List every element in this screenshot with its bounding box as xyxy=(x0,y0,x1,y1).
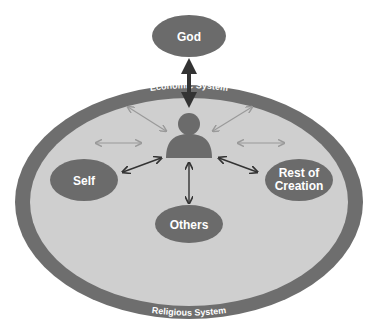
node-god: God xyxy=(152,15,226,57)
svg-text:Self: Self xyxy=(73,174,96,188)
svg-text:God: God xyxy=(177,30,201,44)
svg-text:Rest of: Rest of xyxy=(279,166,321,180)
svg-text:Others: Others xyxy=(170,218,209,232)
node-self: Self xyxy=(50,159,118,201)
svg-text:Creation: Creation xyxy=(275,179,324,193)
diagram-canvas: Economic System Religious System Politic… xyxy=(0,0,375,329)
node-rest-of-creation: Rest of Creation xyxy=(265,159,333,201)
node-others: Others xyxy=(155,205,223,243)
